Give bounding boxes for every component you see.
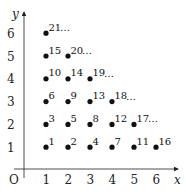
- point-label: 8: [93, 113, 99, 124]
- ellipsis: …: [82, 45, 92, 56]
- y-axis-label: y: [11, 7, 19, 21]
- point-label: 15: [49, 45, 62, 56]
- ellipsis: …: [60, 22, 70, 33]
- point-label: 12: [115, 113, 128, 124]
- x-tick-label: 4: [109, 173, 117, 187]
- x-axis-label: x: [174, 173, 181, 187]
- point-label: 5: [71, 113, 77, 124]
- ellipsis: …: [104, 68, 114, 79]
- point-label: 3: [49, 113, 55, 124]
- data-points: 123456789101112131415161718192021: [43, 22, 171, 150]
- y-tick-labels: 123456: [7, 27, 15, 155]
- point-label: 13: [93, 90, 106, 101]
- x-tick-labels: 123456: [43, 173, 161, 187]
- point-label: 6: [49, 90, 55, 101]
- x-tick-label: 6: [153, 173, 161, 187]
- point-label: 2: [71, 136, 77, 147]
- ellipsis: …: [148, 113, 158, 124]
- y-tick-label: 1: [7, 141, 15, 155]
- point-label: 4: [93, 136, 99, 147]
- y-tick-label: 6: [7, 27, 15, 41]
- point-label: 1: [49, 136, 55, 147]
- point-label: 11: [137, 136, 150, 147]
- x-tick-label: 2: [65, 173, 73, 187]
- point-label: 16: [159, 136, 172, 147]
- point-label: 7: [115, 136, 121, 147]
- point-label: 10: [49, 67, 62, 78]
- ellipsis: …: [126, 91, 136, 102]
- x-tick-label: 3: [87, 173, 95, 187]
- y-tick-label: 5: [7, 50, 15, 64]
- x-tick-label: 1: [43, 173, 51, 187]
- point-label: 9: [71, 90, 77, 101]
- lattice-point-chart: O x y 123456 123456 12345678910111213141…: [0, 0, 186, 192]
- y-tick-label: 2: [7, 118, 15, 132]
- origin-label: O: [9, 173, 19, 187]
- y-tick-label: 4: [7, 72, 15, 86]
- y-tick-label: 3: [7, 95, 15, 109]
- x-tick-label: 5: [131, 173, 139, 187]
- point-label: 14: [71, 67, 84, 78]
